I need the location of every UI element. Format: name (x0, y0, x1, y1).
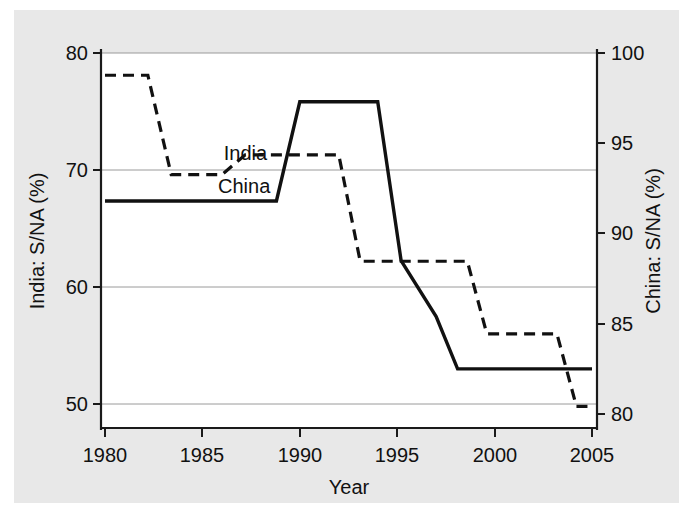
right-tick-label-95: 95 (611, 132, 633, 154)
x-axis-ticks (105, 428, 592, 437)
left-axis-tick-labels: 80 70 60 50 (66, 42, 88, 415)
left-tick-label-80: 80 (66, 42, 88, 64)
right-tick-label-100: 100 (611, 42, 644, 64)
y-axis-title: India: S/NA (%) (26, 173, 48, 310)
x-tick-label-1980: 1980 (83, 444, 128, 466)
left-axis-ticks (93, 53, 101, 404)
x-tick-label-2000: 2000 (473, 444, 518, 466)
x-axis-tick-labels: 1980 1985 1990 1995 2000 2005 (83, 444, 615, 466)
x-tick-label-1990: 1990 (278, 444, 323, 466)
series-label-india: India (224, 142, 268, 164)
left-tick-label-50: 50 (66, 393, 88, 415)
x-tick-label-1985: 1985 (180, 444, 225, 466)
right-axis-tick-labels: 100 95 90 85 80 (611, 42, 644, 425)
x-tick-label-1995: 1995 (375, 444, 420, 466)
right-axis-ticks (597, 53, 605, 414)
left-tick-label-70: 70 (66, 159, 88, 181)
series-label-china: China (218, 175, 271, 197)
right-tick-label-85: 85 (611, 313, 633, 335)
x-axis-title: Year (329, 476, 370, 498)
x-tick-label-2005: 2005 (570, 444, 615, 466)
right-tick-label-80: 80 (611, 403, 633, 425)
figure-root: 80 70 60 50 100 95 90 85 80 (0, 0, 693, 524)
right-tick-label-90: 90 (611, 222, 633, 244)
line-chart: 80 70 60 50 100 95 90 85 80 (0, 0, 693, 524)
left-tick-label-60: 60 (66, 276, 88, 298)
y2-axis-title: China: S/NA (%) (642, 168, 664, 314)
plot-area-background (101, 53, 597, 428)
